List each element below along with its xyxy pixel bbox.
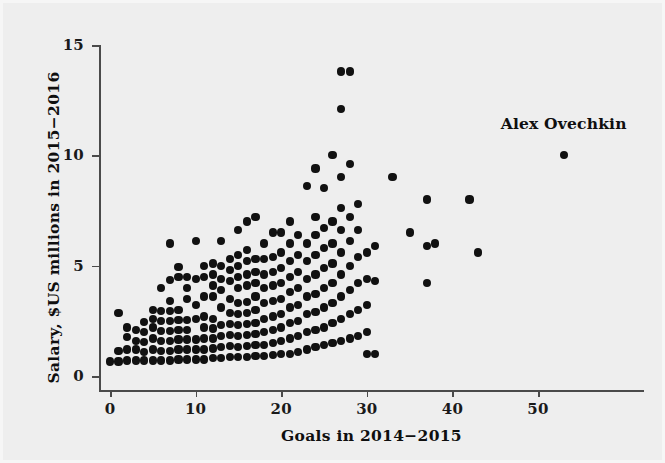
data-point: [269, 228, 277, 236]
data-point: [260, 328, 268, 336]
data-point: [243, 342, 251, 350]
data-point: [209, 259, 217, 267]
data-point: [269, 253, 277, 261]
data-point: [346, 237, 354, 245]
data-point: [303, 182, 311, 190]
data-point: [140, 356, 148, 364]
data-point: [328, 279, 336, 287]
data-point: [294, 332, 302, 340]
data-point: [217, 354, 225, 362]
y-tick-10: [92, 155, 99, 157]
data-point: [217, 275, 225, 283]
data-point: [328, 259, 336, 267]
data-point: [303, 257, 311, 265]
data-point: [311, 308, 319, 316]
data-point: [269, 281, 277, 289]
data-point: [311, 290, 319, 298]
data-point: [371, 242, 379, 250]
data-point: [174, 335, 182, 343]
data-point: [200, 355, 208, 363]
data-point: [277, 337, 285, 345]
data-point: [243, 309, 251, 317]
data-point: [209, 292, 217, 300]
data-point: [166, 347, 174, 355]
x-tick-0: [110, 390, 112, 397]
data-point: [243, 270, 251, 278]
data-point: [251, 255, 259, 263]
data-point: [371, 277, 379, 285]
data-point: [157, 356, 165, 364]
data-point: [320, 224, 328, 232]
data-point: [294, 317, 302, 325]
data-point: [234, 273, 242, 281]
data-point: [226, 255, 234, 263]
data-point: [311, 251, 319, 259]
data-point: [243, 298, 251, 306]
data-point: [388, 173, 396, 181]
x-axis-title: Goals in 2014−2015: [99, 426, 644, 445]
y-tick-5: [92, 266, 99, 268]
data-point: [166, 276, 174, 284]
data-point: [346, 213, 354, 221]
data-point: [260, 239, 268, 247]
data-point: [294, 301, 302, 309]
data-point: [114, 347, 122, 355]
data-point: [157, 317, 165, 325]
plot-area: 051015 01020304050 Alex Ovechkin Goals i…: [0, 0, 665, 463]
data-point: [123, 323, 131, 331]
data-point: [269, 339, 277, 347]
data-point: [217, 262, 225, 270]
data-point: [328, 299, 336, 307]
data-point: [346, 286, 354, 294]
data-point: [226, 331, 234, 339]
data-point: [320, 323, 328, 331]
data-point: [363, 301, 371, 309]
data-point: [346, 67, 354, 75]
data-point: [217, 332, 225, 340]
data-point: [337, 226, 345, 234]
data-point: [251, 268, 259, 276]
data-point: [166, 307, 174, 315]
data-point: [192, 345, 200, 353]
x-tick-label-10: 10: [171, 400, 221, 418]
data-point: [140, 318, 148, 326]
y-tick-label-15: 15: [44, 36, 84, 54]
data-point: [251, 292, 259, 300]
data-point: [209, 324, 217, 332]
data-point: [320, 264, 328, 272]
data-point: [337, 337, 345, 345]
data-point: [217, 321, 225, 329]
data-point: [251, 213, 259, 221]
data-point: [337, 204, 345, 212]
data-point: [371, 350, 379, 358]
data-point: [166, 356, 174, 364]
data-point: [234, 299, 242, 307]
data-point: [192, 301, 200, 309]
data-point: [234, 226, 242, 234]
data-point: [149, 356, 157, 364]
data-point: [166, 337, 174, 345]
data-point: [260, 299, 268, 307]
data-point: [183, 284, 191, 292]
data-point: [183, 273, 191, 281]
data-point: [243, 281, 251, 289]
data-point: [200, 273, 208, 281]
data-point: [311, 343, 319, 351]
data-point: [311, 213, 319, 221]
data-point: [192, 237, 200, 245]
data-point: [328, 217, 336, 225]
data-point: [303, 328, 311, 336]
data-point: [174, 273, 182, 281]
data-point: [431, 239, 439, 247]
data-point: [294, 251, 302, 259]
data-point: [217, 303, 225, 311]
data-point: [337, 67, 345, 75]
data-point: [286, 257, 294, 265]
data-point: [320, 341, 328, 349]
data-point: [294, 231, 302, 239]
data-point: [132, 337, 140, 345]
data-point: [474, 248, 482, 256]
data-point: [294, 348, 302, 356]
data-point: [251, 352, 259, 360]
data-point: [346, 310, 354, 318]
